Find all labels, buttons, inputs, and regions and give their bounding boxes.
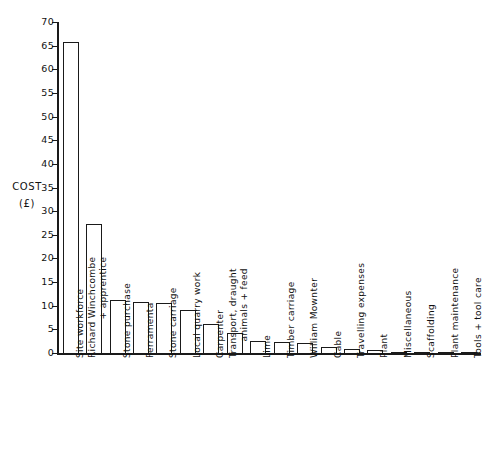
- x-axis-category-label: Carpenter: [215, 310, 226, 358]
- x-axis-category-labels: Site workforceRichard Winchcombe+ appren…: [59, 358, 481, 471]
- x-axis-category-label-line: Carpenter: [215, 310, 226, 358]
- x-label-slot: Travelling expenses: [340, 358, 363, 471]
- x-axis-category-label: Richard Winchcombe+ apprentice: [87, 257, 108, 358]
- bar-slot: [200, 22, 223, 353]
- x-axis-category-label: Timber carriage: [286, 281, 297, 358]
- y-axis-tick-label: 55: [41, 87, 54, 98]
- x-axis-category-label-line: animals + feed: [238, 268, 249, 358]
- x-axis-category-label: Miscellaneous: [403, 290, 414, 358]
- x-label-slot: William Mownter: [293, 358, 316, 471]
- x-label-slot: Carpenter: [200, 358, 223, 471]
- x-axis-category-label-line: Miscellaneous: [403, 290, 414, 358]
- x-axis-category-label-line: Stone carriage: [168, 287, 179, 358]
- x-axis-category-label: Local quarry work: [192, 272, 203, 358]
- x-axis-category-label-line: + apprentice: [98, 257, 109, 358]
- x-axis-category-label-line: Travelling expenses: [356, 263, 367, 358]
- x-axis-category-label: Transport, draughtanimals + feed: [228, 268, 249, 358]
- y-axis-tick-label: 65: [41, 40, 54, 51]
- x-axis-category-label: Cable: [333, 331, 344, 358]
- x-label-slot: Scaffolding: [411, 358, 434, 471]
- bar-slot: [247, 22, 270, 353]
- y-axis-tick-label: 0: [48, 347, 54, 358]
- x-label-slot: Stone purchase: [106, 358, 129, 471]
- x-label-slot: Miscellaneous: [387, 358, 410, 471]
- x-axis-category-label: Ferramenta: [145, 302, 156, 358]
- x-axis-category-label-line: Tools + tool care: [473, 277, 484, 358]
- y-axis-tick-label: 50: [41, 111, 54, 122]
- x-axis-category-label-line: Lime: [262, 335, 273, 358]
- y-axis-tick-label: 70: [41, 16, 54, 27]
- x-label-slot: Plant: [364, 358, 387, 471]
- x-label-slot: Lime: [247, 358, 270, 471]
- x-label-slot: Local quarry work: [176, 358, 199, 471]
- y-axis-tick-label: 30: [41, 205, 54, 216]
- x-axis-category-label: Stone carriage: [168, 287, 179, 358]
- x-axis-category-label: Travelling expenses: [356, 263, 367, 358]
- x-label-slot: Transport, draughtanimals + feed: [223, 358, 246, 471]
- x-axis-category-label-line: Stone purchase: [122, 283, 133, 358]
- bar-chart: COST (£) 0510152025303540455055606570 Si…: [0, 0, 497, 471]
- y-axis-tick-label: 40: [41, 158, 54, 169]
- x-axis-category-label-line: Ferramenta: [145, 302, 156, 358]
- x-label-slot: Tools + tool care: [457, 358, 480, 471]
- x-axis-category-label: Plant maintenance: [450, 268, 461, 358]
- x-label-slot: Cable: [317, 358, 340, 471]
- x-label-slot: Site workforce: [59, 358, 82, 471]
- x-label-slot: Stone carriage: [153, 358, 176, 471]
- y-axis-tick-label: 10: [41, 300, 54, 311]
- x-label-slot: Richard Winchcombe+ apprentice: [82, 358, 105, 471]
- x-axis-category-label-line: Local quarry work: [192, 272, 203, 358]
- x-axis-category-label-line: Transport, draught: [228, 268, 239, 358]
- x-axis-category-label: Plant: [379, 334, 390, 358]
- y-axis-tick-label: 15: [41, 276, 54, 287]
- x-axis-category-label-line: Scaffolding: [426, 304, 437, 358]
- x-axis-category-label-line: Plant: [379, 334, 390, 358]
- y-axis-tick-label: 60: [41, 63, 54, 74]
- x-axis-category-label-line: Plant maintenance: [450, 268, 461, 358]
- x-axis-category-label-line: Site workforce: [75, 289, 86, 358]
- x-axis-category-label-line: Richard Winchcombe: [87, 257, 98, 358]
- bar-slot: [364, 22, 387, 353]
- x-label-slot: Timber carriage: [270, 358, 293, 471]
- x-axis-category-label: William Mownter: [309, 278, 320, 358]
- x-axis-category-label: Tools + tool care: [473, 277, 484, 358]
- bar-slot: [317, 22, 340, 353]
- x-axis-category-label: Scaffolding: [426, 304, 437, 358]
- y-axis-tick-label: 25: [41, 229, 54, 240]
- y-axis-tick-label: 35: [41, 182, 54, 193]
- x-axis-category-label: Stone purchase: [122, 283, 133, 358]
- x-axis-category-label: Site workforce: [75, 289, 86, 358]
- y-axis-tick-label: 20: [41, 252, 54, 263]
- y-axis-title-text: COST: [12, 181, 42, 192]
- x-label-slot: Plant maintenance: [434, 358, 457, 471]
- x-axis-category-label: Lime: [262, 335, 273, 358]
- x-axis-category-label-line: William Mownter: [309, 278, 320, 358]
- x-label-slot: Ferramenta: [129, 358, 152, 471]
- y-axis-tick-label: 45: [41, 134, 54, 145]
- plot-area: 0510152025303540455055606570: [57, 22, 481, 355]
- x-axis-category-label-line: Cable: [333, 331, 344, 358]
- x-axis-category-label-line: Timber carriage: [286, 281, 297, 358]
- y-axis-tick-label: 5: [48, 323, 54, 334]
